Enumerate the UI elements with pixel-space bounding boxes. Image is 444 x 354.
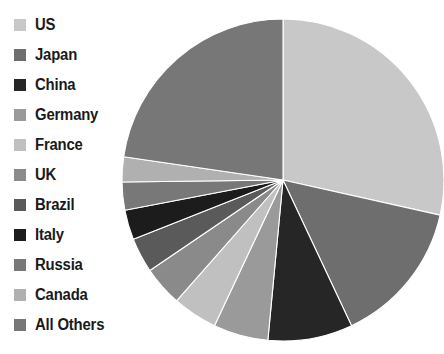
legend-swatch-icon: [14, 19, 26, 31]
legend-swatch-icon: [14, 169, 26, 181]
legend-item-label: China: [35, 70, 75, 100]
legend-item-label: Germany: [35, 100, 98, 130]
pie-svg: [121, 18, 444, 342]
pie-chart-graphic: [121, 18, 444, 342]
legend-swatch-icon: [14, 259, 26, 271]
legend-item[interactable]: Brazil: [14, 190, 126, 220]
legend-item[interactable]: All Others: [14, 310, 126, 340]
legend-item[interactable]: UK: [14, 160, 126, 190]
legend-item-label: Russia: [35, 250, 83, 280]
chart-legend: USJapanChinaGermanyFranceUKBrazilItalyRu…: [14, 10, 126, 346]
legend-swatch-icon: [14, 139, 26, 151]
legend-item[interactable]: Germany: [14, 100, 126, 130]
legend-swatch-icon: [14, 289, 26, 301]
legend-item[interactable]: China: [14, 70, 126, 100]
pie-slice[interactable]: [124, 19, 283, 180]
legend-item[interactable]: France: [14, 130, 126, 160]
legend-item[interactable]: US: [14, 10, 126, 40]
legend-item-label: Italy: [35, 220, 64, 250]
legend-item[interactable]: Canada: [14, 280, 126, 310]
legend-item-label: US: [35, 10, 55, 40]
legend-swatch-icon: [14, 199, 26, 211]
legend-item-label: Canada: [35, 280, 88, 310]
legend-item-label: Japan: [35, 40, 77, 70]
pie-chart-figure: USJapanChinaGermanyFranceUKBrazilItalyRu…: [0, 0, 444, 354]
legend-item-label: Brazil: [35, 190, 74, 220]
legend-item-label: UK: [35, 160, 56, 190]
legend-swatch-icon: [14, 319, 26, 331]
legend-item-label: France: [35, 130, 83, 160]
legend-swatch-icon: [14, 79, 26, 91]
legend-item[interactable]: Russia: [14, 250, 126, 280]
legend-item-label: All Others: [35, 310, 104, 340]
legend-swatch-icon: [14, 49, 26, 61]
legend-item[interactable]: Japan: [14, 40, 126, 70]
legend-swatch-icon: [14, 109, 26, 121]
legend-item[interactable]: Italy: [14, 220, 126, 250]
legend-swatch-icon: [14, 229, 26, 241]
